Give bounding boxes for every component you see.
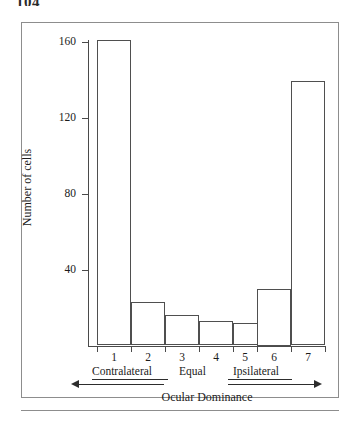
figure-frame [21, 22, 339, 398]
page-number: 104 [16, 0, 40, 6]
figure-bottom-rule [21, 410, 339, 411]
